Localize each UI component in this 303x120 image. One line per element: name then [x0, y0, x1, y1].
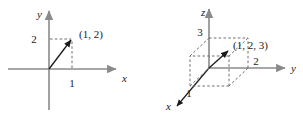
box-edge-top-left-3d: [190, 38, 209, 56]
vector-to-point-2d: [49, 40, 71, 69]
vector-to-point-3d: [209, 51, 228, 68]
point-label-2d: (1, 2): [79, 28, 103, 41]
tick-label-x-2d: 1: [69, 77, 75, 89]
panel-3d: z y x 3 2 1 (1, 2, 3): [165, 6, 296, 112]
tick-label-z-3d: 3: [197, 26, 203, 38]
axis-label-x-2d: x: [121, 72, 127, 84]
axis-x-3d: [177, 68, 209, 106]
diagram-canvas: y x 2 1 (1, 2): [0, 0, 303, 120]
axis-label-y-3d: y: [290, 62, 296, 74]
panel-2d: y x 2 1 (1, 2): [8, 8, 127, 110]
box-edge-bottom-right-3d: [229, 68, 248, 86]
tick-label-y-3d: 2: [253, 55, 259, 67]
axis-label-y-2d: y: [36, 8, 42, 20]
axis-label-z-3d: z: [200, 6, 206, 18]
axis-label-x-3d: x: [165, 100, 171, 112]
tick-label-x-3d: 1: [186, 87, 192, 99]
coordinate-systems-figure: y x 2 1 (1, 2): [0, 0, 303, 120]
point-label-3d: (1, 2, 3): [233, 39, 268, 52]
tick-label-y-2d: 2: [31, 33, 37, 45]
